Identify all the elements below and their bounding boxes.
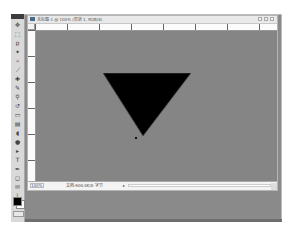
- zoom-level-field[interactable]: 100%: [30, 183, 44, 188]
- horizontal-ruler[interactable]: [35, 24, 277, 31]
- marquee-tool-icon[interactable]: ⬚: [13, 30, 23, 37]
- toolbox-header[interactable]: [11, 14, 24, 19]
- triangle-shape[interactable]: [103, 73, 191, 136]
- status-bar: 100% 文档:900.0K/0 字节 ▸: [28, 181, 277, 190]
- history-brush-tool-icon[interactable]: ↺: [13, 102, 23, 109]
- maximize-button[interactable]: [264, 17, 268, 21]
- document-icon: [30, 17, 35, 21]
- resize-grip[interactable]: [271, 183, 277, 190]
- lasso-tool-icon[interactable]: ϱ: [13, 39, 23, 46]
- close-button[interactable]: [270, 17, 274, 21]
- healing-brush-tool-icon[interactable]: ✚: [13, 75, 23, 82]
- magic-wand-tool-icon[interactable]: ✦: [13, 48, 23, 55]
- status-menu-arrow-icon[interactable]: ▸: [123, 182, 125, 189]
- document-window: 未标题-1 @ 100% (形状 1, RGB/8) 100% 文档:900.0…: [27, 15, 278, 191]
- document-info: 文档:900.0K/0 字节: [66, 182, 103, 189]
- gradient-tool-icon[interactable]: ▤: [13, 120, 23, 127]
- dodge-tool-icon[interactable]: ●: [13, 138, 23, 145]
- vertical-ruler[interactable]: [28, 30, 36, 182]
- move-tool-icon[interactable]: ✥: [13, 21, 23, 28]
- horizontal-scrollbar[interactable]: [128, 184, 271, 187]
- brush-tool-icon[interactable]: ✎: [13, 84, 23, 91]
- notes-tool-icon[interactable]: ✉: [13, 183, 23, 190]
- foreground-color-swatch[interactable]: [13, 197, 22, 206]
- quick-mask-button[interactable]: [13, 211, 24, 217]
- canvas[interactable]: [36, 31, 277, 182]
- pen-tool-icon[interactable]: ✒: [13, 165, 23, 172]
- path-selection-tool-icon[interactable]: ▸: [13, 147, 23, 154]
- minimize-button[interactable]: [258, 17, 262, 21]
- slice-tool-icon[interactable]: ⟋: [13, 66, 23, 73]
- document-title: 未标题-1 @ 100% (形状 1, RGB/8): [37, 16, 102, 23]
- shape-tool-icon[interactable]: ◻: [13, 174, 23, 181]
- document-titlebar[interactable]: 未标题-1 @ 100% (形状 1, RGB/8): [28, 16, 277, 24]
- toolbox: ✥⬚ϱ✦⌗⟋✚✎⚲↺▭▤◖●▸T✒◻✉⌇✋⚲: [11, 14, 25, 222]
- type-tool-icon[interactable]: T: [13, 156, 23, 163]
- cursor-icon: [135, 137, 137, 139]
- blur-tool-icon[interactable]: ◖: [13, 129, 23, 136]
- eraser-tool-icon[interactable]: ▭: [13, 111, 23, 118]
- clone-stamp-tool-icon[interactable]: ⚲: [13, 93, 23, 100]
- crop-tool-icon[interactable]: ⌗: [13, 57, 23, 64]
- workspace-bottom-bar: [11, 219, 282, 222]
